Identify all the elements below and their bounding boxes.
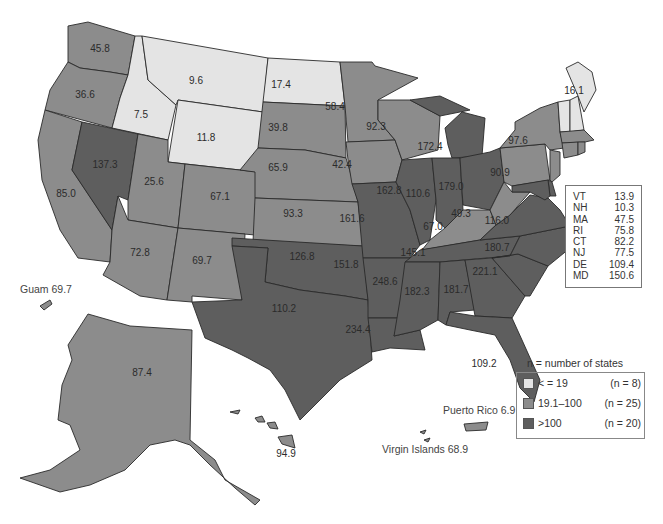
label-OH: 179.0 [438, 181, 463, 192]
legend-item-low: < = 19 (n = 8) [523, 377, 641, 389]
state-CT [562, 142, 578, 158]
label-FL: 109.2 [471, 358, 496, 369]
label-AK: 87.4 [132, 367, 152, 378]
label-virgin-islands: Virgin Islands 68.9 [382, 443, 468, 455]
label-GA: 181.7 [443, 284, 468, 295]
label-NY: 97.6 [508, 135, 528, 146]
label-SC: 221.1 [472, 266, 497, 277]
label-CA: 85.0 [56, 188, 76, 199]
label-WA: 45.8 [90, 43, 110, 54]
label-WI: 92.3 [366, 121, 386, 132]
state-VT [558, 100, 570, 132]
inset-row-ri: RI75.8 [573, 225, 634, 236]
inset-row-ct: CT82.2 [573, 236, 634, 247]
us-choropleth-map: 45.8 36.6 85.0 7.5 137.3 9.6 11.8 25.6 6… [0, 0, 663, 524]
territory-virgin-islands-shape [420, 430, 430, 442]
inset-row-md: MD150.6 [573, 270, 634, 281]
legend-item-mid: 19.1–100 (n = 25) [523, 397, 641, 409]
label-KY: 67.0 [423, 221, 443, 232]
label-PA: 90.9 [490, 167, 510, 178]
label-WY: 11.8 [197, 132, 216, 143]
label-NM: 69.7 [192, 255, 212, 266]
label-NV: 137.3 [92, 159, 117, 170]
label-NC: 180.7 [484, 242, 509, 253]
label-IA: 42.4 [332, 159, 352, 170]
territory-guam-shape [40, 300, 52, 310]
label-OR: 36.6 [75, 89, 95, 100]
label-UT: 25.6 [144, 176, 164, 187]
label-AL: 182.3 [404, 286, 429, 297]
legend-swatch-mid [523, 398, 534, 409]
state-NJ [550, 150, 560, 182]
inset-row-de: DE109.4 [573, 259, 634, 270]
state-MA [560, 130, 594, 143]
label-MT: 9.6 [189, 75, 203, 86]
label-LA: 234.4 [345, 324, 370, 335]
state-IA [346, 140, 402, 184]
state-PA [500, 144, 550, 186]
inset-row-nj: NJ77.5 [573, 247, 634, 258]
territory-puerto-rico-shape [464, 422, 488, 431]
label-SD: 39.8 [268, 122, 288, 133]
label-guam: Guam 69.7 [20, 283, 72, 295]
label-TX: 110.2 [272, 303, 297, 314]
label-OK: 126.8 [289, 251, 314, 262]
inset-row-ma: MA47.5 [573, 214, 634, 225]
label-CO: 67.1 [210, 191, 230, 202]
label-VA: 116.0 [485, 215, 510, 226]
label-ID: 7.5 [134, 109, 148, 120]
label-TN: 145.1 [400, 247, 425, 258]
label-NE: 65.9 [268, 162, 288, 173]
label-IL: 162.8 [376, 185, 401, 196]
label-MO: 161.6 [339, 213, 364, 224]
legend-swatch-high [523, 418, 534, 429]
label-AZ: 72.8 [130, 247, 150, 258]
state-HI [230, 410, 295, 448]
label-HI: 94.9 [276, 448, 296, 459]
legend-item-high: >100 (n = 20) [523, 417, 641, 429]
label-puerto-rico: Puerto Rico 6.9 [443, 404, 516, 416]
label-WV: 49.3 [451, 208, 471, 219]
state-RI [578, 142, 585, 155]
label-KS: 93.3 [283, 208, 303, 219]
legend-swatch-low [523, 378, 534, 389]
inset-row-nh: NH10.3 [573, 202, 634, 213]
small-states-inset-table: VT13.9 NH10.3 MA47.5 RI75.8 CT82.2 NJ77.… [565, 185, 642, 288]
label-ND: 17.4 [271, 79, 291, 90]
inset-row-vt: VT13.9 [573, 191, 634, 202]
legend-title: n = number of states [527, 357, 623, 369]
label-AR: 151.8 [333, 259, 358, 270]
label-MI: 172.4 [417, 141, 442, 152]
label-MS: 248.6 [372, 276, 397, 287]
label-IN: 110.6 [406, 188, 431, 199]
label-MN: 58.4 [325, 101, 345, 112]
label-ME: 16.1 [564, 85, 584, 96]
